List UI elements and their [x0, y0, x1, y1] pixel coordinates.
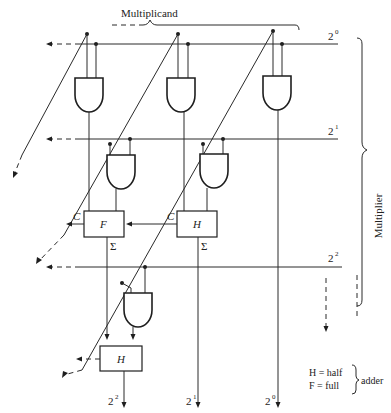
svg-text:2: 2	[186, 395, 192, 407]
svg-text:C: C	[73, 210, 81, 222]
svg-text:0: 0	[272, 393, 276, 401]
legend-half: H = half	[309, 367, 343, 378]
full-adder-F: F C Σ	[66, 210, 124, 340]
and-gate-r0-c0	[75, 34, 103, 227]
svg-text:0: 0	[335, 28, 339, 36]
row-line-2-0	[46, 42, 338, 47]
row-label-2-0: 2 0	[328, 28, 339, 42]
output-label-2-0: 2 0	[265, 393, 276, 407]
row-line-2-2	[46, 265, 342, 270]
and-gate-r0-c1	[167, 34, 195, 227]
legend-full: F = full	[309, 380, 339, 391]
legend-adder: adder	[361, 375, 384, 386]
diagonal-line-1	[13, 34, 87, 178]
svg-text:2: 2	[108, 395, 114, 407]
row-label-2-2: 2 2	[328, 250, 339, 264]
legend-brace	[352, 365, 359, 394]
multiplicand-label: Multiplicand	[121, 7, 178, 19]
row-line-2-1	[46, 137, 338, 142]
output-label-2-1: 2 1	[186, 393, 197, 407]
svg-text:Σ: Σ	[110, 240, 116, 252]
multiplier-brace	[357, 38, 367, 306]
svg-text:2: 2	[115, 393, 119, 401]
continuation-dashed-1	[324, 278, 329, 332]
array-multiplier-diagram: Multiplicand Multiplier 2 0 2 1 2 2	[0, 0, 391, 413]
svg-text:C: C	[167, 210, 175, 222]
svg-text:Σ: Σ	[201, 240, 207, 252]
multiplicand-brace	[143, 20, 299, 30]
svg-text:2: 2	[328, 30, 334, 42]
svg-text:1: 1	[193, 393, 197, 401]
svg-text:2: 2	[265, 395, 271, 407]
svg-text:F: F	[99, 218, 107, 230]
legend: H = half F = full adder	[309, 365, 384, 394]
svg-text:2: 2	[335, 250, 339, 258]
and-gate-r2-c0	[122, 267, 152, 340]
svg-text:2: 2	[328, 252, 334, 264]
row-label-2-1: 2 1	[328, 123, 339, 137]
svg-text:H: H	[116, 353, 126, 365]
svg-text:H: H	[192, 218, 202, 230]
multiplier-label: Multiplier	[372, 193, 384, 238]
output-label-2-2: 2 2	[108, 393, 119, 407]
svg-text:1: 1	[335, 123, 339, 131]
and-gate-r0-c2	[263, 31, 291, 408]
svg-text:2: 2	[328, 125, 334, 137]
